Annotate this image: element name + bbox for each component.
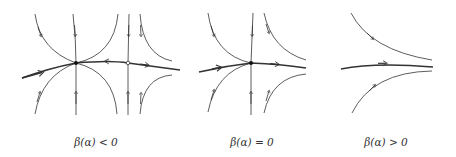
saddle-point: [126, 61, 130, 65]
panel-beta-negative: [22, 14, 180, 115]
center-manifold: [341, 65, 433, 69]
panel-beta-positive: [341, 13, 433, 113]
stable-node-point: [74, 61, 78, 65]
caption-beta-zero: β(α) = 0: [230, 136, 274, 148]
center-manifold: [199, 63, 306, 72]
bifurcation-diagram: [0, 0, 456, 157]
caption-beta-negative: β(α) < 0: [74, 136, 118, 148]
saddle-node-point: [249, 61, 253, 65]
caption-beta-positive: β(α) > 0: [364, 136, 408, 148]
